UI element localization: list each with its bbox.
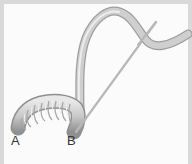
tube-free-section [79,11,188,112]
coil-diagram [0,0,192,164]
coil-section [18,101,78,132]
label-b: B [67,134,76,147]
label-a: A [11,134,20,147]
